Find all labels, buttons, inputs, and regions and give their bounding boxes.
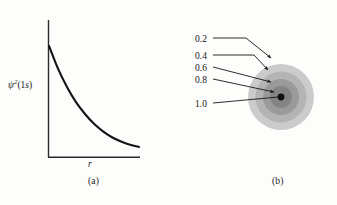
contour-label-0-4: 0.4 [195, 51, 207, 61]
panel-b-contours: 0.2 0.4 0.6 0.8 1.0 (b) [168, 0, 337, 205]
panel-b-caption: (b) [272, 176, 284, 186]
figure-container: ψ2(1s) r (a) 0.2 0.4 0.6 0.8 1.0 (b) [0, 0, 337, 205]
panel-a-caption: (a) [88, 176, 99, 186]
panel-a-svg [0, 0, 168, 205]
contour-shell-1 [278, 94, 285, 101]
contour-label-0-8: 0.8 [195, 75, 207, 85]
contour-label-0-2: 0.2 [195, 34, 207, 44]
y-axis-label-paren-close: ) [29, 80, 32, 90]
contour-label-1-0: 1.0 [195, 99, 207, 109]
y-axis-label: ψ2(1s) [8, 78, 32, 90]
contour-label-0-6: 0.6 [195, 63, 207, 73]
x-axis-label: r [88, 159, 92, 169]
leader-line-0-4 [213, 55, 268, 70]
panel-b-svg [168, 0, 337, 205]
contour-shell-group [248, 64, 314, 130]
decay-curve [49, 46, 139, 147]
panel-a-plot: ψ2(1s) r (a) [0, 0, 168, 205]
